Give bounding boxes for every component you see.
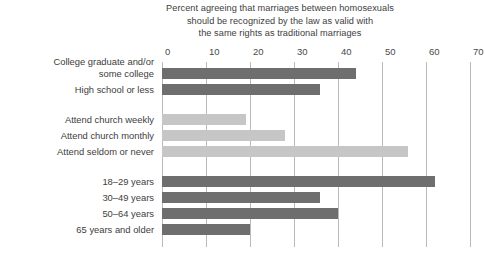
category-label-line: Attend church monthly	[61, 130, 154, 142]
x-tick-label-10: 10	[209, 46, 220, 57]
x-tick-label-30: 30	[297, 46, 308, 57]
chart-title-line-1: Percent agreeing that marriages between …	[130, 2, 430, 15]
category-label: Attend seldom or never	[57, 146, 154, 158]
category-label-line: Attend church weekly	[65, 114, 154, 126]
bar	[162, 224, 250, 235]
category-label-line: 30–49 years	[102, 192, 154, 204]
category-label-line: Attend seldom or never	[57, 146, 154, 158]
category-label: College graduate and/orsome college	[53, 56, 154, 79]
category-label-line: 50–64 years	[102, 208, 154, 220]
category-label-line: College graduate and/or	[53, 56, 154, 68]
category-label-line: some college	[53, 68, 154, 80]
x-tick-label-70: 70	[473, 46, 484, 57]
bar	[162, 176, 435, 187]
bar	[162, 130, 285, 141]
category-label: 30–49 years	[102, 192, 154, 204]
bar	[162, 192, 320, 203]
category-label: Attend church monthly	[61, 130, 154, 142]
bar	[162, 68, 356, 79]
category-label-line: 65 years and older	[76, 224, 154, 236]
chart-title-line-2: should be recognized by the law as valid…	[130, 15, 430, 28]
x-tick-label-0: 0	[165, 46, 170, 57]
category-label: 65 years and older	[76, 224, 154, 236]
chart-title-line-3: the same rights as traditional marriages	[130, 27, 430, 40]
x-axis-tick-labels: 010203040506070	[162, 46, 472, 60]
bar	[162, 84, 320, 95]
bar-series	[162, 62, 472, 247]
chart-title: Percent agreeing that marriages between …	[130, 2, 430, 40]
x-tick-label-60: 60	[429, 46, 440, 57]
category-label-line: High school or less	[75, 84, 154, 96]
x-tick-label-40: 40	[341, 46, 352, 57]
x-tick-label-20: 20	[253, 46, 264, 57]
category-label: High school or less	[75, 84, 154, 96]
bar	[162, 114, 246, 125]
category-label-line: 18–29 years	[102, 176, 154, 188]
category-axis-labels: College graduate and/orsome collegeHigh …	[0, 62, 158, 247]
category-label: 50–64 years	[102, 208, 154, 220]
bar	[162, 146, 408, 157]
category-label: 18–29 years	[102, 176, 154, 188]
x-tick-label-50: 50	[385, 46, 396, 57]
bar	[162, 208, 338, 219]
category-label: Attend church weekly	[65, 114, 154, 126]
bar-chart: Percent agreeing that marriages between …	[0, 0, 485, 261]
